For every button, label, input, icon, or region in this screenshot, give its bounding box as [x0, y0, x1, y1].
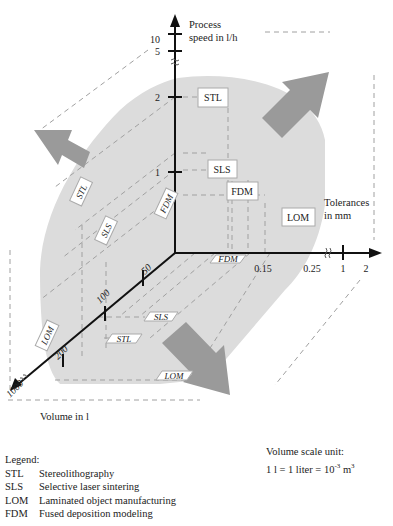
floor-label-fdm: FDM: [217, 254, 238, 264]
legend-name: Selective laser sintering: [39, 480, 139, 494]
unit-note-formula: 1 l = 1 liter = 10-3 m3: [266, 459, 355, 477]
legend-item: LOM Laminated object manufacturing: [5, 494, 176, 508]
horizontal-axis-title-line2: in mm: [324, 210, 351, 221]
vertical-tick-5: 5: [155, 46, 160, 57]
vertical-axis-title-line2: speed in l/h: [189, 32, 238, 43]
horizontal-tick-2: 2: [364, 263, 369, 274]
process-label-sls: SLS: [213, 164, 230, 175]
volume-unit-note: Volume scale unit: 1 l = 1 liter = 10-3 …: [266, 445, 355, 477]
legend-name: Fused deposition modeling: [39, 507, 153, 521]
unit-formula-exponent: 3: [351, 462, 355, 470]
floor-label-lom: LOM: [163, 371, 184, 381]
legend-item: SLS Selective laser sintering: [5, 480, 176, 494]
legend-abbr: FDM: [5, 507, 39, 521]
legend-name: Laminated object manufacturing: [39, 494, 176, 508]
legend-title: Legend:: [5, 453, 176, 467]
legend-name: Stereolithography: [39, 467, 114, 481]
process-label-fdm: FDM: [231, 186, 253, 197]
horizontal-tick-0.15: 0.15: [254, 263, 272, 274]
legend-item: STL Stereolithography: [5, 467, 176, 481]
depth-axis-title: Volume in l: [40, 411, 89, 422]
horizontal-axis-arrowhead: [369, 248, 382, 258]
legend-item: FDM Fused deposition modeling: [5, 507, 176, 521]
vertical-axis-title-line1: Process: [189, 19, 221, 30]
vertical-axis-arrowhead: [170, 14, 180, 27]
horizontal-tick-0.25: 0.25: [303, 263, 321, 274]
vertical-tick-1: 1: [155, 167, 160, 178]
vertical-tick-2: 2: [155, 92, 160, 103]
horizontal-tick-1: 1: [341, 263, 346, 274]
floor-label-sls: SLS: [154, 312, 169, 322]
unit-note-title: Volume scale unit:: [266, 445, 355, 459]
trend-diagram: 10 5 2 1 0.15 0.25 1 2 50 100 200 1000 P…: [0, 0, 393, 445]
process-label-lom: LOM: [287, 212, 309, 223]
vertical-tick-10: 10: [150, 34, 160, 45]
legend-abbr: LOM: [5, 494, 39, 508]
floor-label-stl: STL: [117, 334, 132, 344]
legend: Legend: STL Stereolithography SLS Select…: [5, 453, 176, 521]
unit-formula-unit: m: [340, 464, 351, 475]
process-label-stl: STL: [204, 92, 222, 103]
legend-abbr: SLS: [5, 480, 39, 494]
legend-abbr: STL: [5, 467, 39, 481]
guide-line: [275, 280, 360, 385]
horizontal-axis-title-line1: Tolerances: [324, 197, 369, 208]
unit-formula-base: 1 l = 1 liter = 10: [266, 464, 334, 475]
arrow-up-left-icon: [34, 130, 90, 168]
